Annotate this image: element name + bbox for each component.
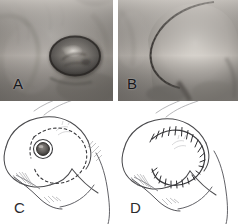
panel-c-label: C bbox=[14, 200, 25, 215]
panel-d-drawing: D bbox=[116, 101, 238, 224]
panel-b-label: B bbox=[127, 76, 137, 91]
panel-b-photograph: B bbox=[118, 0, 238, 101]
panel-d-label: D bbox=[130, 200, 141, 215]
panel-c-drawing: C bbox=[0, 101, 116, 224]
figure-container: A bbox=[0, 0, 238, 224]
panel-a-photograph: A bbox=[0, 0, 113, 101]
panel-a-label: A bbox=[13, 76, 23, 91]
panel-c-lesion bbox=[34, 140, 53, 159]
